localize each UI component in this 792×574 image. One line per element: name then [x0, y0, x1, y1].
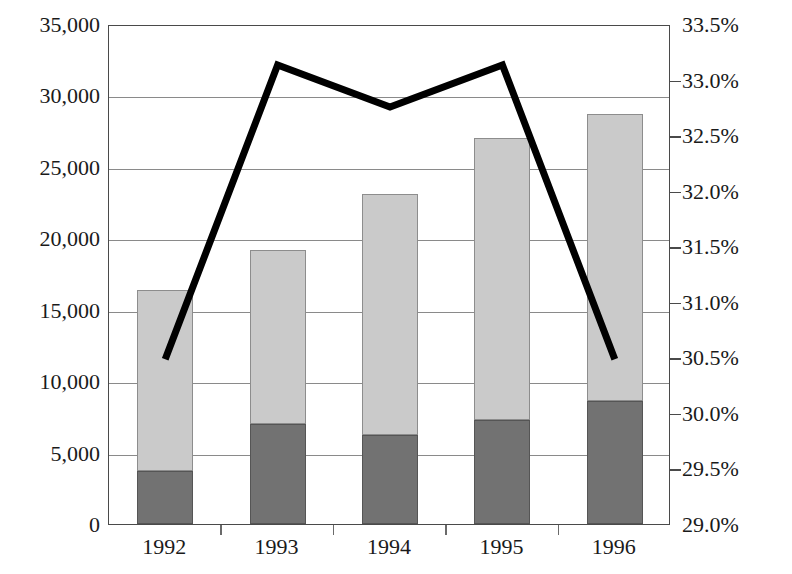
y-axis-right-tick-label: 33.5%: [682, 14, 792, 36]
y-axis-right-tick-label: 30.5%: [682, 347, 792, 369]
bar-stack: [587, 24, 643, 524]
y-axis-right-tick-label: 30.0%: [682, 403, 792, 425]
y-axis-right-tick-label: 32.0%: [682, 181, 792, 203]
bar-stack: [474, 24, 530, 524]
bar-segment-bottom: [362, 435, 418, 524]
bar-segment-bottom: [137, 471, 193, 524]
y-axis-right: 29.0%29.5%30.0%30.5%31.0%31.5%32.0%32.5%…: [682, 25, 792, 525]
x-axis-tickmark: [558, 525, 560, 535]
bar-segment-top: [137, 290, 193, 471]
y-axis-right-tickmark: [670, 414, 681, 416]
y-axis-right-tick-label: 29.5%: [682, 458, 792, 480]
y-axis-right-tickmark: [670, 136, 681, 138]
y-axis-left: 05,00010,00015,00020,00025,00030,00035,0…: [0, 25, 100, 525]
y-axis-left-tick-label: 20,000: [2, 228, 100, 250]
bar-segment-bottom: [250, 424, 306, 524]
bar-segment-bottom: [587, 401, 643, 524]
y-axis-right-tickmark: [670, 469, 681, 471]
bar-segment-top: [362, 194, 418, 435]
x-axis-tickmark: [445, 525, 447, 535]
y-axis-right-tick-label: 29.0%: [682, 514, 792, 536]
bar-segment-top: [587, 114, 643, 401]
x-axis-tickmark: [220, 525, 222, 535]
bar-stack: [250, 24, 306, 524]
y-axis-left-tick-label: 25,000: [2, 157, 100, 179]
bar-segment-top: [474, 138, 530, 419]
x-axis-tick-label: 1996: [558, 535, 670, 559]
y-axis-left-tick-label: 15,000: [2, 300, 100, 322]
x-axis-tick-label: 1993: [220, 535, 332, 559]
bar-stack: [362, 24, 418, 524]
y-axis-right-tickmark: [670, 303, 681, 305]
y-axis-right-tickmark: [670, 81, 681, 83]
y-axis-right-tickmark: [670, 358, 681, 360]
y-axis-right-tick-label: 31.5%: [682, 236, 792, 258]
x-axis: 19921993199419951996: [108, 535, 670, 571]
y-axis-right-tickmark: [670, 247, 681, 249]
bar-segment-bottom: [474, 420, 530, 524]
y-axis-left-tick-label: 5,000: [2, 443, 100, 465]
bar-segment-top: [250, 250, 306, 424]
y-axis-left-tick-label: 30,000: [2, 85, 100, 107]
x-axis-tick-label: 1992: [108, 535, 220, 559]
y-axis-left-tick-label: 35,000: [2, 14, 100, 36]
y-axis-left-tick-label: 10,000: [2, 371, 100, 393]
y-axis-right-tick-label: 31.0%: [682, 292, 792, 314]
y-axis-left-tick-label: 0: [2, 514, 100, 536]
x-axis-tick-label: 1994: [333, 535, 445, 559]
bar-stack: [137, 24, 193, 524]
x-axis-tick-label: 1995: [445, 535, 557, 559]
y-axis-right-tick-label: 32.5%: [682, 125, 792, 147]
y-axis-right-tickmark: [670, 192, 681, 194]
plot-area: [108, 25, 670, 525]
x-axis-tickmark: [333, 525, 335, 535]
y-axis-right-tick-label: 33.0%: [682, 70, 792, 92]
chart-container: 05,00010,00015,00020,00025,00030,00035,0…: [0, 0, 792, 574]
